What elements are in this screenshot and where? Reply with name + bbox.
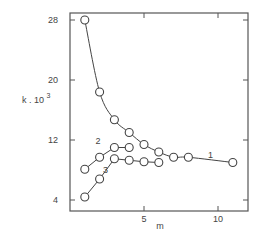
data-point-series-1 bbox=[155, 148, 163, 156]
data-point-series-1 bbox=[81, 16, 89, 24]
series-label-2: 2 bbox=[96, 136, 101, 146]
y-tick-label: 12 bbox=[48, 135, 58, 145]
y-tick-label: 28 bbox=[48, 15, 58, 25]
data-point-series-3 bbox=[155, 159, 163, 167]
data-point-series-1 bbox=[96, 88, 104, 96]
data-point-series-1 bbox=[170, 153, 178, 161]
data-point-series-3 bbox=[125, 156, 133, 164]
chart-canvas: 4122028510 123 m k . 10 3 bbox=[0, 0, 262, 237]
y-axis-title-main: k . 10 bbox=[22, 95, 44, 105]
series-label-1: 1 bbox=[208, 150, 213, 160]
data-point-series-3 bbox=[110, 155, 118, 163]
data-point-series-1 bbox=[125, 129, 133, 137]
data-point-series-1 bbox=[140, 141, 148, 149]
data-point-series-1 bbox=[229, 159, 237, 167]
data-point-series-2 bbox=[110, 144, 118, 152]
series-line-1 bbox=[85, 20, 233, 163]
axis-ticks: 4122028510 bbox=[48, 13, 248, 224]
y-tick-label: 20 bbox=[48, 75, 58, 85]
data-point-series-3 bbox=[96, 175, 104, 183]
data-point-series-2 bbox=[81, 165, 89, 173]
data-point-series-3 bbox=[81, 193, 89, 201]
data-point-series-3 bbox=[140, 158, 148, 166]
x-tick-label: 10 bbox=[213, 214, 223, 224]
data-point-series-2 bbox=[125, 144, 133, 152]
data-point-series-1 bbox=[184, 153, 192, 161]
data-point-series-1 bbox=[110, 116, 118, 124]
x-axis-title: m bbox=[156, 221, 164, 231]
data-point-series-2 bbox=[96, 153, 104, 161]
y-axis-title: k . 10 3 bbox=[22, 92, 51, 105]
y-axis-title-exponent: 3 bbox=[47, 92, 51, 99]
x-tick-label: 5 bbox=[141, 214, 146, 224]
series-label-3: 3 bbox=[103, 165, 108, 175]
y-tick-label: 4 bbox=[53, 195, 58, 205]
